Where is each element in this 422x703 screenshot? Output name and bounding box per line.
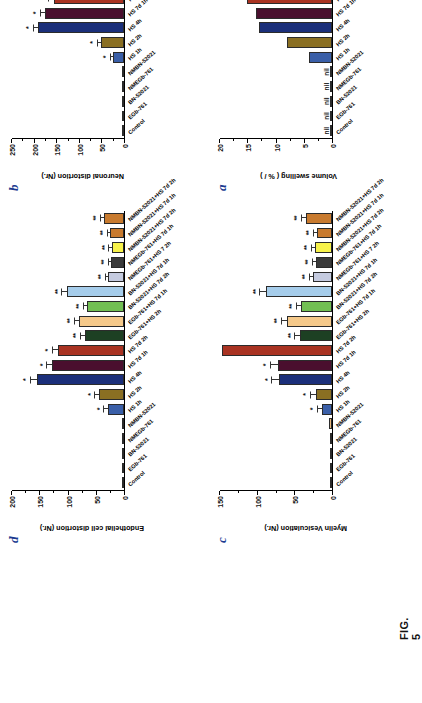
significance-marker: ** [305, 231, 312, 235]
significance-marker: ** [303, 245, 310, 249]
x-axis-label: EGb-761+HS 7d 1h [333, 314, 407, 329]
y-tick-minor [68, 139, 69, 142]
panel-c-xlabels: ControlEGb-761BN-52021NMEGb-761NMBN-5202… [333, 211, 407, 490]
error-bar [81, 335, 85, 336]
x-axis-label: NMBN-52021+HS 7d 1h [125, 226, 199, 241]
bar [317, 228, 332, 239]
error-bar-cap [33, 24, 34, 31]
significance-marker: ** [92, 216, 99, 220]
significance-marker: * [96, 408, 103, 410]
y-tick-label: 150 [54, 144, 61, 156]
y-tick-minor [233, 139, 234, 142]
significance-marker: * [25, 27, 32, 29]
bar-group [12, 65, 124, 80]
nil-annotation: nil [323, 97, 330, 105]
bar-group: * [12, 343, 124, 358]
y-tick [124, 139, 125, 143]
x-axis-label: Control [333, 123, 407, 138]
x-axis-label: HS 7d 1h [333, 6, 407, 21]
nil-annotation: nil [323, 68, 330, 76]
x-axis-label: NMEGb-761+HS 7 2h [125, 270, 199, 285]
error-bar [84, 305, 87, 306]
error-bar [260, 291, 266, 292]
error-bar [62, 291, 66, 292]
bar-group: ** [220, 270, 332, 285]
x-axis-label: HS 4h [125, 21, 199, 36]
significance-marker: ** [288, 304, 295, 308]
nil-annotation: nil [323, 112, 330, 120]
x-axis-label: NMBN-52021+HS 7d 1h [333, 226, 407, 241]
error-bar [101, 217, 104, 218]
bar [316, 257, 332, 268]
significance-marker: ** [273, 319, 280, 323]
panel-a-xlabels: ControlEGb-761BN-52021NMEGb-761NMBN-5202… [333, 0, 407, 138]
error-bar-cap [105, 274, 106, 281]
bar-group: ** [12, 211, 124, 226]
bar [330, 81, 332, 92]
bar-group: nil [220, 79, 332, 94]
bar-group [220, 475, 332, 490]
error-bar-cap [108, 259, 109, 266]
x-axis-label: NMEGb-761+HS 7d 1h [333, 255, 407, 270]
significance-marker: * [44, 349, 51, 351]
bar [259, 22, 332, 33]
bar [112, 242, 124, 253]
y-tick [68, 491, 69, 495]
panel-b-ylabel: Neuronal distortion (Nr.) [41, 172, 124, 181]
error-bar-cap [271, 376, 272, 383]
error-bar-cap [48, 0, 49, 2]
y-tick [219, 491, 220, 495]
bar-group: ** [220, 314, 332, 329]
panel-c-ylabel: Myelin Vesiculation (Nr.) [264, 524, 347, 533]
y-tick-label: 50 [292, 496, 299, 504]
bar-group: ** [220, 328, 332, 343]
bar [122, 81, 124, 92]
significance-marker: ** [304, 260, 311, 264]
x-axis-label: EGb-761 [333, 461, 407, 476]
error-bar-cap [46, 362, 47, 369]
bar-group: * [12, 21, 124, 36]
y-tick-label: 200 [31, 144, 38, 156]
y-tick-label: 150 [37, 496, 44, 508]
y-tick-label: 100 [76, 144, 83, 156]
error-bar [98, 42, 101, 43]
error-bar [95, 394, 99, 395]
error-bar-cap [294, 332, 295, 339]
bar-group [220, 431, 332, 446]
panel-a-plot: 05101520 nilnilnilnilnil [220, 0, 333, 139]
y-tick-label: 15 [245, 144, 252, 152]
error-bar-cap [74, 318, 75, 325]
bar-group: nil [220, 65, 332, 80]
y-tick-minor [90, 139, 91, 142]
bar [122, 433, 124, 444]
x-axis-label: BN-52021 [333, 94, 407, 109]
bar [58, 345, 124, 356]
y-tick [332, 491, 333, 495]
panel-a-ylabel: Volume swelling ( % / ) [260, 172, 337, 181]
bar [104, 213, 124, 224]
x-axis-label: EGb-761 [333, 109, 407, 124]
panel-b-letter: b [6, 185, 22, 192]
significance-marker: * [87, 393, 94, 395]
x-axis-label: HS 7d 2h [125, 343, 199, 358]
x-axis-label: HS 7d 2h [125, 0, 199, 6]
bar-group: nil [220, 123, 332, 138]
bar [330, 111, 332, 122]
panel-d: d Endothelial cell distortion (Nr.) 0501… [4, 207, 199, 547]
error-bar-cap [107, 229, 108, 236]
error-bar-cap [100, 215, 101, 222]
error-bar-cap [312, 259, 313, 266]
x-axis-label: NMBN-52021 [333, 65, 407, 80]
error-bar-cap [83, 303, 84, 310]
bar-group: ** [220, 240, 332, 255]
bar [315, 242, 332, 253]
bar [108, 272, 124, 283]
y-tick [219, 139, 220, 143]
bar-group [220, 343, 332, 358]
bar-group [12, 94, 124, 109]
error-bar [108, 232, 110, 233]
panel-c-letter: c [214, 537, 230, 543]
bar-group: * [12, 358, 124, 373]
error-bar-cap [309, 274, 310, 281]
error-bar-cap [301, 215, 302, 222]
